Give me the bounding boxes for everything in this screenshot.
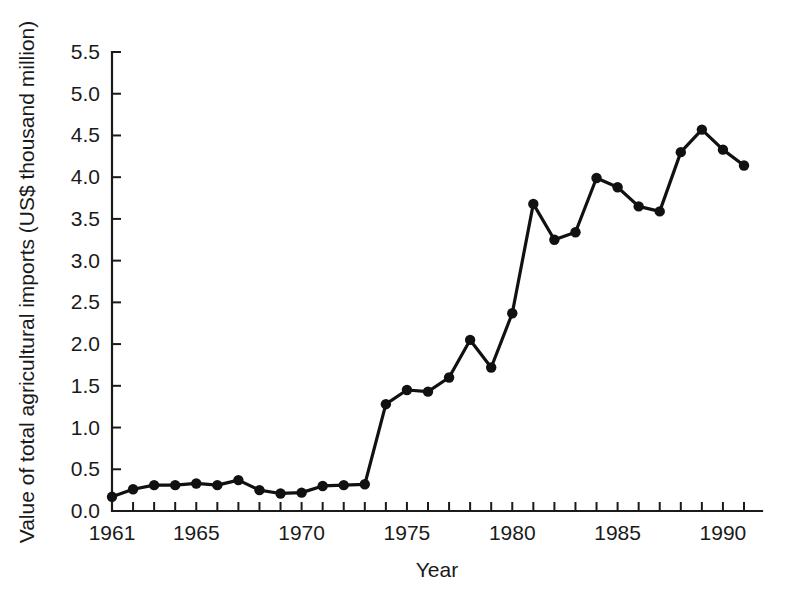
y-tick-label: 4.0 <box>71 165 100 188</box>
data-point <box>465 335 475 345</box>
data-point <box>191 478 201 488</box>
y-tick-label: 2.0 <box>71 332 100 355</box>
y-tick-label: 3.5 <box>71 207 100 230</box>
data-point <box>676 147 686 157</box>
x-tick-label: 1990 <box>700 521 747 544</box>
y-tick-label: 5.0 <box>71 82 100 105</box>
data-point <box>507 308 517 318</box>
data-point <box>697 124 707 134</box>
data-point <box>149 480 159 490</box>
data-point <box>549 235 559 245</box>
data-point <box>402 385 412 395</box>
y-tick-label: 0.0 <box>71 499 100 522</box>
data-point <box>655 206 665 216</box>
data-point <box>128 484 138 494</box>
y-axis-ticks <box>112 52 121 511</box>
data-point <box>254 485 264 495</box>
y-axis-tick-labels: 0.00.51.01.52.02.53.03.54.04.55.05.5 <box>71 40 100 522</box>
data-point <box>739 160 749 170</box>
chart-container: 0.00.51.01.52.02.53.03.54.04.55.05.5 196… <box>0 0 793 601</box>
x-axis-ticks <box>112 502 744 511</box>
x-tick-label: 1980 <box>489 521 536 544</box>
y-tick-label: 4.5 <box>71 123 100 146</box>
data-series-points <box>107 124 749 502</box>
x-tick-label: 1961 <box>89 521 136 544</box>
data-point <box>233 475 243 485</box>
data-point <box>170 480 180 490</box>
y-tick-label: 0.5 <box>71 457 100 480</box>
data-point <box>317 481 327 491</box>
data-point <box>570 227 580 237</box>
y-tick-label: 5.5 <box>71 40 100 63</box>
x-tick-label: 1970 <box>278 521 325 544</box>
data-series-line <box>112 130 744 497</box>
data-point <box>633 201 643 211</box>
x-tick-label: 1985 <box>594 521 641 544</box>
data-point <box>612 182 622 192</box>
data-point <box>381 399 391 409</box>
data-point <box>444 372 454 382</box>
y-axis-title: Value of total agricultural imports (US$… <box>15 21 38 544</box>
y-tick-label: 1.0 <box>71 416 100 439</box>
x-tick-label: 1965 <box>173 521 220 544</box>
x-axis-tick-labels: 1961196519701975198019851990 <box>89 521 747 544</box>
line-chart: 0.00.51.01.52.02.53.03.54.04.55.05.5 196… <box>0 0 793 601</box>
data-point <box>212 480 222 490</box>
data-point <box>591 173 601 183</box>
x-axis-title: Year <box>416 558 458 581</box>
y-tick-label: 3.0 <box>71 249 100 272</box>
data-point <box>107 492 117 502</box>
chart-axes <box>112 52 762 511</box>
data-point <box>718 144 728 154</box>
y-tick-label: 1.5 <box>71 374 100 397</box>
data-point <box>423 386 433 396</box>
data-point <box>528 199 538 209</box>
data-point <box>275 488 285 498</box>
data-point <box>360 479 370 489</box>
y-tick-label: 2.5 <box>71 290 100 313</box>
x-tick-label: 1975 <box>384 521 431 544</box>
data-point <box>339 480 349 490</box>
data-point <box>296 487 306 497</box>
data-point <box>486 362 496 372</box>
